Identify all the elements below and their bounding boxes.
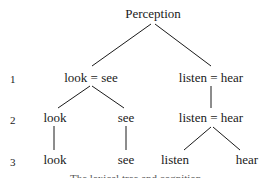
- node-see: see: [118, 111, 135, 125]
- edge-listen-hear-listen: [184, 127, 211, 150]
- node-see-level3: see: [118, 153, 135, 167]
- level-number-1: 1: [10, 72, 16, 86]
- node-listen-equals-hear: listen = hear: [179, 71, 243, 85]
- edge-listen-hear-hear: [213, 127, 240, 150]
- edge-look-see-see: [92, 86, 124, 108]
- node-look: look: [43, 111, 66, 125]
- edge-look-see-look: [58, 86, 90, 108]
- figure-caption-clipped: The lexical tree and cognition: [70, 171, 201, 178]
- level-number-3: 3: [10, 155, 16, 169]
- node-listen: listen: [161, 153, 189, 167]
- node-listen-equals-hear-level2: listen = hear: [179, 111, 243, 125]
- level-number-2: 2: [10, 113, 16, 127]
- perception-tree-diagram: Perception 1 look = see listen = hear 2 …: [0, 0, 264, 178]
- node-look-level3: look: [43, 153, 66, 167]
- node-perception: Perception: [125, 7, 181, 21]
- edge-perception-listen-hear: [155, 24, 211, 66]
- edge-perception-look-see: [92, 24, 151, 66]
- node-look-equals-see: look = see: [64, 71, 118, 85]
- node-hear: hear: [236, 153, 258, 167]
